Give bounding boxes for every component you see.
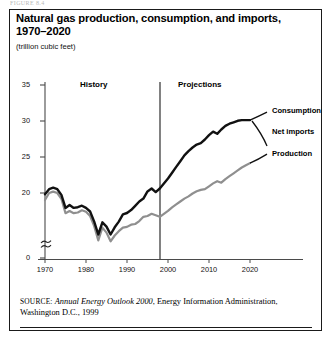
x-tick-label-2020: 2020 xyxy=(236,266,264,274)
y-tick-label-35: 35 xyxy=(14,81,30,89)
page-title: Natural gas production, consumption, and… xyxy=(16,12,296,39)
x-tick-label-1990: 1990 xyxy=(113,266,141,274)
figure-box xyxy=(9,9,322,331)
annotation-projections: Projections xyxy=(178,80,222,89)
x-tick-label-2010: 2010 xyxy=(195,266,223,274)
annotation-history: History xyxy=(80,80,108,89)
y-tick-label-30: 30 xyxy=(14,117,30,125)
chart-units-subtitle: (trillion cubic feet) xyxy=(16,42,276,52)
figure-root: FIGURE 8.4 Natural gas production, consu… xyxy=(0,0,331,340)
series-label-production: Production xyxy=(272,149,312,158)
y-tick-label-25: 25 xyxy=(14,153,30,161)
series-label-net-imports: Net imports xyxy=(272,127,314,136)
y-tick-label-0: 0 xyxy=(14,254,30,262)
x-tick-label-1980: 1980 xyxy=(72,266,100,274)
top-caption-fragment: FIGURE 8.4 xyxy=(10,0,130,7)
x-tick-label-2000: 2000 xyxy=(154,266,182,274)
x-tick-label-1970: 1970 xyxy=(31,266,59,274)
source-prefix: SOURCE: xyxy=(20,297,53,306)
source-publication: Annual Energy Outlook 2000 xyxy=(55,297,153,306)
source-note: SOURCE: Annual Energy Outlook 2000, Ener… xyxy=(20,296,292,319)
bottom-rule xyxy=(20,327,312,328)
y-tick-label-20: 20 xyxy=(14,189,30,197)
series-label-consumption: Consumption xyxy=(272,106,321,115)
